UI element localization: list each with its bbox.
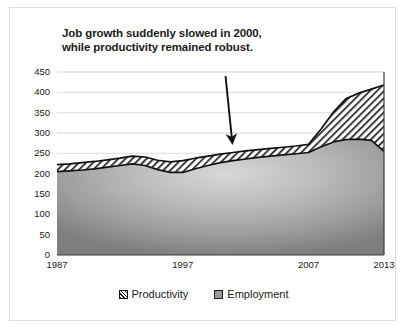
legend-swatch-employment-icon <box>214 290 223 299</box>
chart-series-areas <box>57 85 384 255</box>
legend-label-employment: Employment <box>227 288 288 300</box>
chart-figure: Job growth suddenly slowed in 2000, whil… <box>0 0 407 332</box>
y-tick-label: 150 <box>24 188 50 199</box>
chart-plot-area <box>0 0 407 332</box>
legend-label-productivity: Productivity <box>132 288 189 300</box>
y-tick-label: 50 <box>24 229 50 240</box>
y-tick-label: 350 <box>24 107 50 118</box>
x-tick-label: 2013 <box>364 259 404 270</box>
annotation-arrow <box>226 76 232 138</box>
y-tick-label: 250 <box>24 147 50 158</box>
y-tick-label: 100 <box>24 208 50 219</box>
y-tick-label: 400 <box>24 86 50 97</box>
legend-item-productivity[interactable]: Productivity <box>119 288 189 300</box>
y-tick-label: 450 <box>24 66 50 77</box>
x-tick-label: 2007 <box>289 259 329 270</box>
chart-legend: Productivity Employment <box>0 288 407 300</box>
legend-item-employment[interactable]: Employment <box>214 288 288 300</box>
y-tick-label: 200 <box>24 168 50 179</box>
y-tick-label: 300 <box>24 127 50 138</box>
x-tick-label: 1997 <box>163 259 203 270</box>
legend-swatch-productivity-icon <box>119 290 128 299</box>
x-tick-label: 1987 <box>37 259 77 270</box>
